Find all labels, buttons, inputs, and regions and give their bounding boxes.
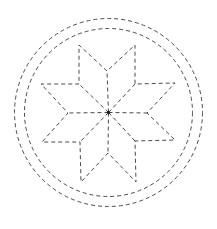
star-ray	[109, 113, 148, 114]
star-ray	[109, 113, 136, 142]
star-diagram	[0, 0, 217, 229]
star-ray	[109, 84, 136, 113]
center-point	[107, 111, 111, 115]
star-diagram-svg	[0, 0, 217, 229]
star-ray	[80, 113, 109, 143]
star-ray	[107, 71, 109, 113]
star-ray	[79, 84, 109, 113]
star-ray	[108, 113, 109, 154]
star-ray	[68, 113, 109, 114]
